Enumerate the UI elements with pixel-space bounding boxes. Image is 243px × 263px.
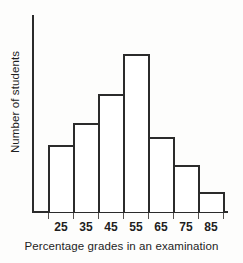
plot-area xyxy=(33,15,228,212)
histogram-bar xyxy=(73,123,100,212)
histogram-bar xyxy=(173,165,200,212)
x-axis-tick xyxy=(73,213,74,219)
x-axis-tick-label: 45 xyxy=(98,220,124,234)
y-axis-title: Number of students xyxy=(9,17,21,187)
x-axis-tick xyxy=(98,213,99,219)
x-axis-tick xyxy=(223,213,224,219)
x-axis-tick xyxy=(48,213,49,219)
x-axis-tick-label: 75 xyxy=(173,220,199,234)
histogram-bar xyxy=(148,137,175,212)
x-axis-tick-label: 85 xyxy=(198,220,224,234)
x-axis-title: Percentage grades in an examination xyxy=(0,240,243,252)
x-axis-tick xyxy=(198,213,199,219)
histogram-bar xyxy=(98,94,125,212)
x-axis-tick-label: 25 xyxy=(48,220,74,234)
x-axis-tick xyxy=(173,213,174,219)
x-axis-tick xyxy=(148,213,149,219)
histogram-bar xyxy=(48,145,75,212)
histogram-bar xyxy=(123,54,150,212)
x-axis-tick-label: 55 xyxy=(123,220,149,234)
x-axis-tick-label: 65 xyxy=(148,220,174,234)
x-axis-tick xyxy=(123,213,124,219)
histogram-bar xyxy=(198,192,225,212)
x-axis-tick-label: 35 xyxy=(73,220,99,234)
histogram-figure: 25354555657585 Percentage grades in an e… xyxy=(0,0,243,263)
